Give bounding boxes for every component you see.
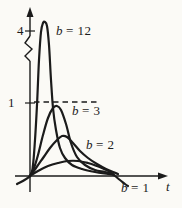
y-tick-label-4: 4 [17, 24, 24, 37]
y-tick-label-1: 1 [8, 96, 15, 109]
curve-label-b3-eq: = 3 [82, 103, 101, 118]
x-axis-label-var: t [166, 179, 170, 194]
curve-label-b1: b= 1 [121, 181, 150, 194]
curve-label-b3: b= 3 [72, 104, 101, 117]
curve-label-b1-eq: = 1 [131, 180, 150, 195]
curve-label-b2: b= 2 [86, 138, 115, 151]
x-axis-label: t [166, 180, 172, 193]
curve-label-b1-var: b [121, 180, 128, 195]
curve-label-b12-eq: = 12 [66, 23, 92, 38]
curve-label-b2-eq: = 2 [96, 137, 115, 152]
figure-response-curves: 4 1 b= 12 b= 3 b= 2 b= 1 t [0, 0, 182, 208]
curve-label-b2-var: b [86, 137, 93, 152]
curve-label-b12-var: b [56, 23, 63, 38]
curve-label-b3-var: b [72, 103, 79, 118]
curve-b1 [30, 161, 128, 186]
curve-label-b12: b= 12 [56, 24, 92, 37]
y-axis-break-icon [25, 36, 32, 61]
y-axis-arrow-icon [27, 7, 34, 17]
